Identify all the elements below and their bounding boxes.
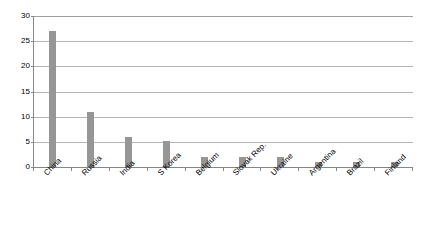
y-axis-tick-label: 25 — [2, 37, 30, 45]
y-axis-tick-label: 5 — [2, 138, 30, 146]
y-axis-tick-label: 20 — [2, 62, 30, 70]
y-axis-tick-label: 30 — [2, 12, 30, 20]
y-axis-tick-label: 10 — [2, 113, 30, 121]
x-axis-tick-labels: ChinaRussiaIndiaS KoreaBelgiumSlovak Rep… — [33, 171, 428, 233]
bar-series — [34, 16, 413, 167]
y-axis-tick-label: 15 — [2, 88, 30, 96]
plot-area — [33, 16, 413, 168]
y-axis-tick-label: 0 — [2, 163, 30, 171]
bar-chart: 051015202530 ChinaRussiaIndiaS KoreaBelg… — [0, 0, 428, 233]
y-axis-tick-labels: 051015202530 — [0, 0, 30, 233]
bar — [49, 31, 56, 167]
